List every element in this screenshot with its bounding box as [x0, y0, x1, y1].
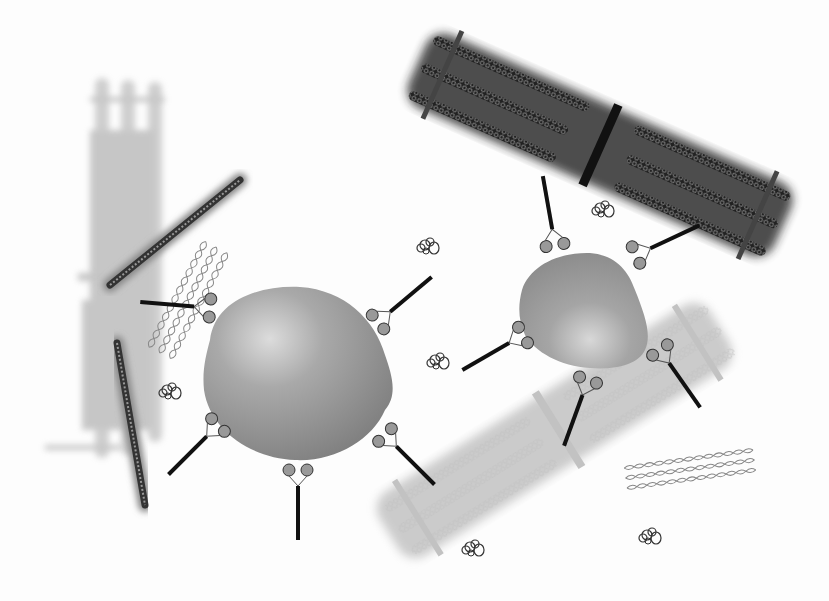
vesicle-large [203, 287, 392, 460]
free-protein-icon [417, 238, 439, 254]
muscle-protein-diagram [0, 0, 829, 601]
fiber-mesh-right [624, 448, 756, 490]
vesicle-small [519, 253, 648, 368]
free-protein-icon [462, 540, 484, 556]
diagram-canvas [0, 0, 829, 601]
free-protein-icon [427, 353, 449, 369]
dark-sarcomere-top [398, 20, 802, 270]
free-protein-icon [159, 383, 181, 399]
free-protein-icon [639, 528, 661, 544]
free-protein-icon [592, 201, 614, 217]
faded-sarcomere-left [45, 78, 165, 458]
